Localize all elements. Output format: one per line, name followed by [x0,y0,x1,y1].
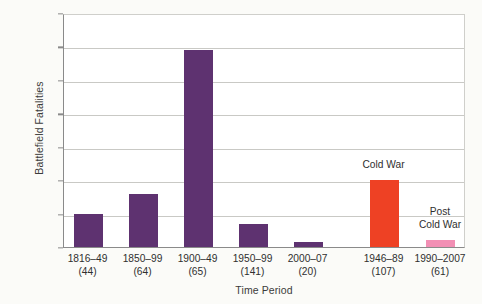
plot-area [63,14,465,248]
x-tick-1900-49: 1900–49 (65) [178,252,218,278]
bar-1950-99[interactable] [239,224,268,247]
x-tick-1850-99-count: (64) [123,265,163,278]
gridline-10000 [64,216,464,217]
annotation-post-cold-war-line1: Post [430,205,450,218]
x-tick-1946-89-count: (107) [364,265,404,278]
gridline-20000 [64,182,464,183]
x-tick-1900-49-count: (65) [178,265,218,278]
bar-1990-2007-post-cold-war[interactable] [426,240,455,247]
bar-1816-49[interactable] [74,214,103,247]
chart-figure: Battlefield Fatalities 0 10,000 20,000 3… [0,0,482,304]
bar-1946-89-cold-war[interactable] [370,180,399,247]
bar-1900-49[interactable] [184,50,213,247]
x-tick-1900-49-period: 1900–49 [178,252,218,265]
bar-2000-07[interactable] [294,242,323,247]
x-tick-1990-2007-count: (61) [415,265,466,278]
x-axis-title: Time Period [63,284,465,296]
x-tick-1946-89: 1946–89 (107) [364,252,404,278]
x-tick-1850-99: 1850–99 (64) [123,252,163,278]
x-tick-2000-07: 2000–07 (20) [288,252,328,278]
x-tick-1816-49-period: 1816–49 [68,252,108,265]
x-tick-1816-49: 1816–49 (44) [68,252,108,278]
x-tick-1990-2007-period: 1990–2007 [415,252,466,265]
x-tick-1950-99: 1950–99 (141) [233,252,273,278]
bar-1850-99[interactable] [129,194,158,248]
annotation-cold-war: Cold War [362,158,404,171]
x-tick-2000-07-count: (20) [288,265,328,278]
x-tick-1950-99-count: (141) [233,265,273,278]
y-axis-title: Battlefield Fatalities [33,33,45,223]
annotation-post-cold-war-line2: Cold War [419,218,461,231]
gridline-60000 [64,48,464,49]
x-tick-2000-07-period: 2000–07 [288,252,328,265]
x-tick-1946-89-period: 1946–89 [364,252,404,265]
gridline-30000 [64,149,464,150]
x-tick-1850-99-period: 1850–99 [123,252,163,265]
x-tick-1816-49-count: (44) [68,265,108,278]
gridline-50000 [64,82,464,83]
x-tick-1950-99-period: 1950–99 [233,252,273,265]
gridline-40000 [64,115,464,116]
x-tick-1990-2007: 1990–2007 (61) [415,252,466,278]
